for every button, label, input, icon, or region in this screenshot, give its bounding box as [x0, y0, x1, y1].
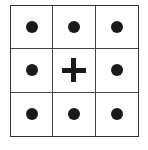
dot-icon: [26, 21, 38, 33]
dot-icon: [26, 108, 38, 120]
dot-icon: [111, 64, 123, 76]
grid-cell-3-2: [53, 93, 95, 136]
dot-icon: [68, 21, 80, 33]
three-by-three-grid: [10, 5, 139, 137]
grid-cell-2-3: [96, 49, 138, 92]
grid-cell-1-1: [11, 6, 53, 49]
dot-icon: [111, 108, 123, 120]
dot-icon: [111, 21, 123, 33]
grid-cell-2-1: [11, 49, 53, 92]
grid-cell-1-3: [96, 6, 138, 49]
dot-icon: [68, 108, 80, 120]
plus-icon: [62, 58, 86, 82]
grid-cell-3-3: [96, 93, 138, 136]
dot-icon: [26, 64, 38, 76]
grid-cell-2-2: [53, 49, 95, 92]
grid-cell-1-2: [53, 6, 95, 49]
grid-cell-3-1: [11, 93, 53, 136]
